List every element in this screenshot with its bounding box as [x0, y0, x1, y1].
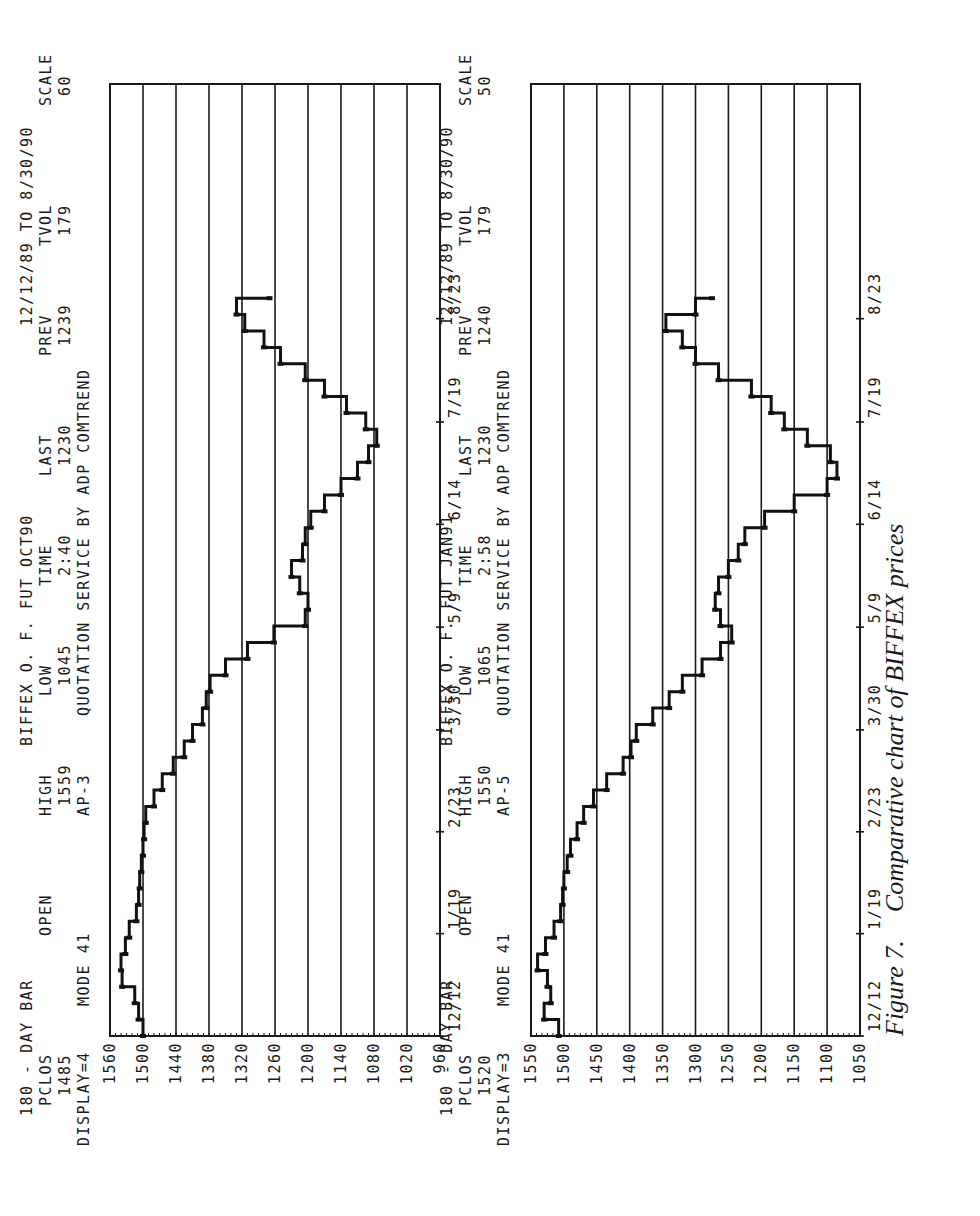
- price-bar: [119, 985, 125, 989]
- header-label-high: HIGH: [37, 774, 55, 816]
- header-date-range: 12/12/89 TO 8/30/90: [18, 126, 36, 326]
- price-bar: [159, 788, 165, 792]
- y-tick-label: 1500: [134, 1042, 152, 1084]
- price-bar: [140, 1034, 146, 1038]
- price-bar: [558, 919, 564, 923]
- price-bar: [271, 641, 277, 645]
- header-value-high: 1559: [56, 764, 74, 806]
- header-value-pclos: 1485: [56, 1054, 74, 1096]
- price-bar: [628, 755, 634, 759]
- price-bar: [136, 903, 142, 907]
- price-bar: [604, 788, 610, 792]
- price-bar: [302, 542, 308, 546]
- header-label-tvol: TVOL: [37, 204, 55, 246]
- figure-number: Figure 7.: [880, 940, 909, 1036]
- header-date-range: 12/12/89 TO 8/30/90: [438, 126, 456, 326]
- y-tick-label: 1450: [588, 1042, 606, 1084]
- price-bar: [544, 985, 550, 989]
- price-bar: [355, 477, 361, 481]
- header-display: DISPLAY=4: [75, 1051, 93, 1146]
- price-bar: [151, 804, 157, 808]
- header-label-last: LAST: [457, 434, 475, 476]
- price-bar: [366, 460, 372, 464]
- price-bar: [716, 378, 722, 382]
- price-bar: [564, 870, 570, 874]
- price-bar: [136, 1018, 142, 1022]
- header-value-last: 1230: [56, 424, 74, 466]
- price-bar: [567, 854, 573, 858]
- price-bar: [223, 673, 229, 677]
- price-bar: [344, 411, 350, 415]
- price-bar: [302, 624, 308, 628]
- price-bar: [207, 690, 213, 694]
- price-bar: [126, 936, 132, 940]
- price-bar: [535, 968, 541, 972]
- price-bar: [278, 362, 284, 366]
- price-bar: [834, 477, 840, 481]
- price-series-oct90: [121, 298, 377, 1036]
- price-bar: [170, 772, 176, 776]
- price-bar: [308, 526, 314, 530]
- header-label-last: LAST: [37, 434, 55, 476]
- price-bar: [199, 722, 205, 726]
- price-bar: [827, 460, 833, 464]
- price-bar: [140, 854, 146, 858]
- price-bar: [709, 296, 715, 300]
- y-tick-label: 1320: [233, 1042, 251, 1084]
- y-tick-label: 1250: [719, 1042, 737, 1084]
- price-bar: [541, 1018, 547, 1022]
- price-bar: [363, 427, 369, 431]
- price-bar: [302, 378, 308, 382]
- y-tick-label: 1440: [167, 1042, 185, 1084]
- y-tick-label: 1050: [851, 1042, 869, 1084]
- price-bar: [693, 313, 699, 317]
- price-bar: [768, 411, 774, 415]
- price-bar: [234, 313, 240, 317]
- price-bar: [712, 608, 718, 612]
- figure-caption: Figure 7.Comparative chart of BIFFEX pri…: [880, 524, 910, 1036]
- price-bar: [143, 821, 149, 825]
- y-tick-label: 1400: [621, 1042, 639, 1084]
- price-bar: [181, 755, 187, 759]
- price-bar: [261, 345, 267, 349]
- price-bar: [581, 821, 587, 825]
- header-mode: MODE 41: [75, 932, 93, 1006]
- x-tick-label: 7/19: [866, 376, 884, 418]
- header-label-high: HIGH: [457, 774, 475, 816]
- header-value-time: 2:58: [476, 534, 494, 576]
- header-label-tvol: TVOL: [457, 204, 475, 246]
- price-bar: [542, 952, 548, 956]
- price-series-jan91: [538, 298, 837, 1036]
- header-period: 180 - DAY BAR: [18, 979, 36, 1116]
- price-bar: [190, 739, 196, 743]
- header-label-open: OPEN: [37, 894, 55, 936]
- price-bar: [666, 706, 672, 710]
- header-label-time: TIME: [457, 544, 475, 586]
- header-label-open: OPEN: [457, 894, 475, 936]
- header-ap: AP-3: [75, 774, 93, 816]
- price-bar: [699, 673, 705, 677]
- price-bar: [679, 345, 685, 349]
- price-bar: [716, 591, 722, 595]
- price-bar: [650, 722, 656, 726]
- header-value-last: 1230: [476, 424, 494, 466]
- price-bar: [338, 493, 344, 497]
- header-label-prev: PREV: [457, 314, 475, 356]
- header-value-tvol: 179: [56, 204, 74, 236]
- header-value-low: 1045: [56, 644, 74, 686]
- price-bar: [267, 296, 273, 300]
- chart-oct90: 180 - DAY BARBIFFEX O. F. FUT OCT9012/12…: [18, 53, 464, 1146]
- header-label-scale: SCALE: [457, 53, 475, 106]
- y-tick-label: 1260: [266, 1042, 284, 1084]
- header-label-time: TIME: [37, 544, 55, 586]
- y-tick-label: 1550: [522, 1042, 540, 1084]
- y-tick-label: 1080: [365, 1042, 383, 1084]
- y-tick-label: 1300: [687, 1042, 705, 1084]
- header-label-prev: PREV: [37, 314, 55, 356]
- price-bar: [322, 509, 328, 513]
- price-bar: [791, 509, 797, 513]
- header-value-time: 2:40: [56, 534, 74, 576]
- header-contract: BIFFEX O. F. FUT OCT90: [18, 514, 36, 746]
- price-bar: [824, 493, 830, 497]
- y-tick-label: 1140: [332, 1042, 350, 1084]
